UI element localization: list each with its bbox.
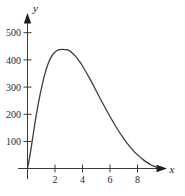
y-tick-label-300: 300 (6, 82, 21, 93)
y-tick-label-100: 100 (6, 136, 21, 147)
x-axis-arrow-icon (157, 165, 168, 172)
y-tick-label-500: 500 (6, 27, 21, 38)
data-curve (28, 49, 157, 168)
y-tick-label-400: 400 (6, 55, 21, 66)
y-axis-label: y (32, 2, 38, 14)
x-tick-label-8: 8 (135, 174, 140, 185)
chart-figure: 100 200 300 400 500 2 4 6 8 y x (0, 0, 185, 196)
x-axis-label: x (169, 163, 175, 175)
x-tick-label-6: 6 (108, 174, 113, 185)
x-tick-label-2: 2 (53, 174, 58, 185)
x-tick-label-4: 4 (80, 174, 85, 185)
plot-area: 100 200 300 400 500 2 4 6 8 y x (0, 0, 185, 196)
y-tick-label-200: 200 (6, 109, 21, 120)
y-axis-arrow-icon (24, 13, 31, 24)
